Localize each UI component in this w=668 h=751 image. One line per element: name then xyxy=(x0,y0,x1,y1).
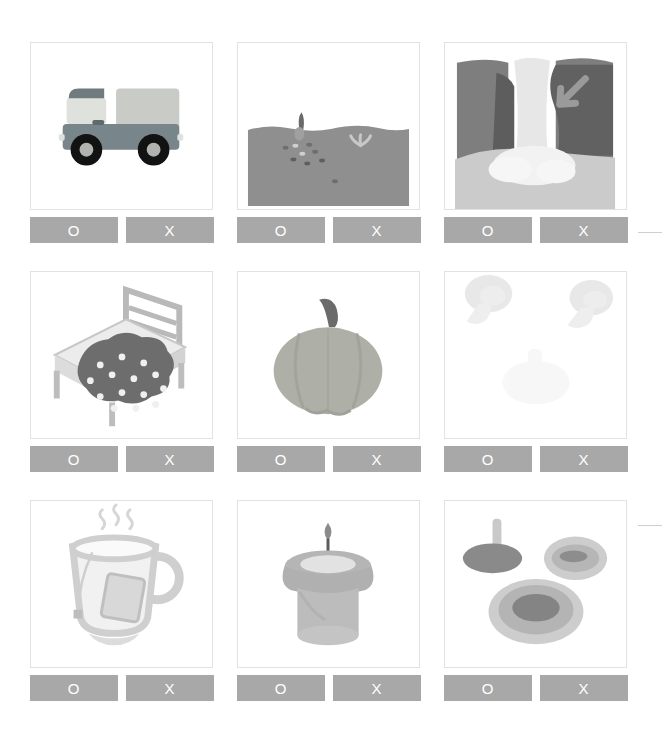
answer-row: O X xyxy=(444,217,629,243)
question-card: O X xyxy=(237,500,422,701)
waterfall-illustration xyxy=(444,42,627,210)
answer-x-button[interactable]: X xyxy=(333,675,421,701)
teacup-illustration xyxy=(30,500,213,668)
question-card: O X xyxy=(237,271,422,472)
answer-row: O X xyxy=(237,217,422,243)
faint-mushrooms-illustration xyxy=(444,271,627,439)
soil-seeds-illustration xyxy=(237,42,420,210)
pumpkin-illustration xyxy=(237,271,420,439)
question-card: O X xyxy=(444,42,629,243)
question-card: O X xyxy=(237,42,422,243)
edge-rule-row3 xyxy=(638,525,662,526)
edge-rule-row1 xyxy=(638,232,662,233)
candle-illustration xyxy=(237,500,420,668)
answer-o-button[interactable]: O xyxy=(237,675,325,701)
answer-row: O X xyxy=(237,446,422,472)
page-title xyxy=(0,0,668,8)
truck-illustration xyxy=(30,42,213,210)
answer-row: O X xyxy=(237,675,422,701)
mushroom-caps-illustration xyxy=(444,500,627,668)
answer-x-button[interactable]: X xyxy=(540,675,628,701)
answer-o-button[interactable]: O xyxy=(444,675,532,701)
answer-o-button[interactable]: O xyxy=(444,446,532,472)
answer-x-button[interactable]: X xyxy=(126,675,214,701)
question-card: O X xyxy=(30,500,215,701)
answer-o-button[interactable]: O xyxy=(30,446,118,472)
answer-row: O X xyxy=(444,446,629,472)
answer-o-button[interactable]: O xyxy=(237,217,325,243)
answer-x-button[interactable]: X xyxy=(333,217,421,243)
answer-x-button[interactable]: X xyxy=(540,446,628,472)
question-card: O X xyxy=(30,271,215,472)
answer-row: O X xyxy=(30,217,215,243)
answer-x-button[interactable]: X xyxy=(126,217,214,243)
bed-illustration xyxy=(30,271,213,439)
answer-x-button[interactable]: X xyxy=(126,446,214,472)
answer-x-button[interactable]: X xyxy=(333,446,421,472)
answer-row: O X xyxy=(30,446,215,472)
answer-o-button[interactable]: O xyxy=(237,446,325,472)
answer-o-button[interactable]: O xyxy=(30,675,118,701)
answer-row: O X xyxy=(30,675,215,701)
question-card: O X xyxy=(444,500,629,701)
question-card: O X xyxy=(30,42,215,243)
answer-o-button[interactable]: O xyxy=(444,217,532,243)
card-grid: O X xyxy=(30,42,630,701)
question-card: O X xyxy=(444,271,629,472)
answer-o-button[interactable]: O xyxy=(30,217,118,243)
answer-x-button[interactable]: X xyxy=(540,217,628,243)
answer-row: O X xyxy=(444,675,629,701)
